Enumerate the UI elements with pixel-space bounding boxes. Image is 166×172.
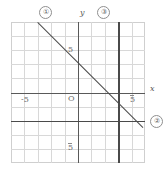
plot-area: O 5 5 -5 5 (11, 22, 145, 163)
line-vertical-3 (118, 22, 120, 163)
y-tick-negative-5: 5 (68, 144, 73, 152)
x-axis-label: x (150, 85, 155, 93)
x-tick-negative-5: -5 (21, 96, 29, 104)
callout-3: ③ (97, 6, 110, 19)
line-horizontal-2 (11, 121, 145, 123)
coordinate-grid-figure: O 5 5 -5 5 y x ① ② ③ (0, 0, 166, 172)
callout-1: ① (39, 6, 52, 19)
y-tick-negative-5-text: 5 (68, 144, 73, 152)
callout-2: ② (150, 115, 163, 128)
y-tick-positive-5: 5 (68, 46, 73, 54)
x-tick-positive-5: 5 (130, 96, 135, 104)
origin-label: O (68, 95, 75, 103)
y-axis-label: y (80, 9, 85, 17)
x-axis (11, 93, 145, 94)
x-tick-positive-5-text: 5 (130, 96, 135, 104)
